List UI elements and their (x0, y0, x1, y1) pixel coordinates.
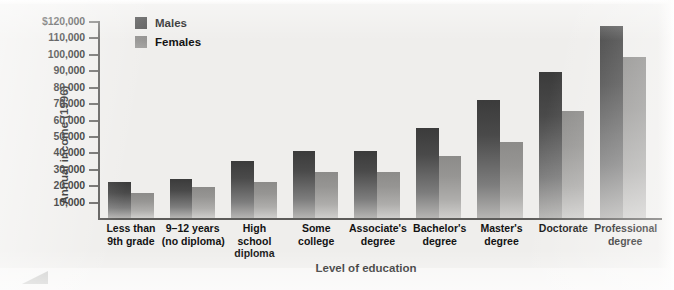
y-tick-label: 50,000 (53, 130, 85, 142)
bar-females (377, 172, 400, 218)
y-tick-label: 110,000 (48, 31, 85, 43)
category-label-line: High (224, 222, 286, 235)
legend-swatch-females-icon (135, 36, 147, 48)
x-axis-category-label: Professionaldegree (594, 222, 656, 247)
x-axis-line (98, 218, 662, 220)
y-tick-mark (89, 87, 98, 89)
category-label-line: Bachelor's (409, 222, 471, 235)
category-label-line: Professional (594, 222, 656, 235)
page-top-edge (0, 0, 674, 4)
bar-group (231, 21, 277, 218)
y-tick-label: $120,000 (42, 15, 85, 27)
bar-males (231, 161, 254, 218)
y-tick-mark (89, 21, 98, 23)
category-label-line: degree (347, 235, 409, 248)
y-tick-mark (89, 136, 98, 138)
bar-group (477, 21, 523, 218)
x-axis-title-text: Level of education (316, 262, 417, 274)
page-right-edge (658, 0, 674, 290)
y-tick-mark (89, 202, 98, 204)
category-label-line: 9–12 years (162, 222, 224, 235)
bar-males (477, 100, 500, 218)
legend-label-males: Males (155, 17, 187, 29)
x-axis-category-label: Doctorate (532, 222, 594, 235)
chart-legend: Males Females (135, 17, 201, 55)
x-axis-category-label: Master'sdegree (471, 222, 533, 247)
y-tick-label: 90,000 (53, 64, 85, 76)
y-tick-mark (89, 103, 98, 105)
y-tick-mark (89, 169, 98, 171)
bar-females (192, 187, 215, 218)
figure-container: Annual income (1996) 10,00020,00030,0004… (0, 0, 674, 290)
category-label-line: college (285, 235, 347, 248)
y-tick-label: 70,000 (53, 97, 85, 109)
y-tick-label: 40,000 (53, 146, 85, 158)
bar-females (254, 182, 277, 218)
x-axis-category-label: 9–12 years(no diploma) (162, 222, 224, 247)
y-tick-mark (89, 152, 98, 154)
category-label-line: degree (471, 235, 533, 248)
x-axis-title: Level of education (0, 262, 674, 274)
bar-males (108, 182, 131, 218)
x-axis-category-label: Somecollege (285, 222, 347, 247)
bar-females (439, 156, 462, 218)
bar-males (354, 151, 377, 218)
x-axis-category-label: Highschooldiploma (224, 222, 286, 260)
category-label-line: Less than (100, 222, 162, 235)
x-axis-category-label: Less than9th grade (100, 222, 162, 247)
bar-females (500, 142, 523, 218)
category-label-line: (no diploma) (162, 235, 224, 248)
y-tick-mark (89, 37, 98, 39)
bar-males (293, 151, 316, 218)
y-tick-mark (89, 70, 98, 72)
legend-label-females: Females (155, 36, 201, 48)
category-label-line: diploma (224, 247, 286, 260)
category-label-line: degree (409, 235, 471, 248)
category-label-line: Associate's (347, 222, 409, 235)
y-tick-label: 60,000 (53, 114, 85, 126)
x-axis-category-label: Bachelor'sdegree (409, 222, 471, 247)
legend-item-males: Males (135, 17, 201, 29)
bar-males (416, 128, 439, 218)
bar-females (315, 172, 338, 218)
bar-males (600, 26, 623, 218)
y-tick-mark (89, 120, 98, 122)
bar-group (293, 21, 339, 218)
y-tick-mark (89, 185, 98, 187)
y-tick-label: 100,000 (48, 48, 85, 60)
y-tick-label: 30,000 (53, 163, 85, 175)
bar-females (562, 111, 585, 218)
category-label-line: school (224, 235, 286, 248)
category-label-line: Doctorate (532, 222, 594, 235)
y-tick-mark (89, 54, 98, 56)
category-label-line: degree (594, 235, 656, 248)
legend-item-females: Females (135, 36, 201, 48)
bar-males (539, 72, 562, 218)
category-label-line: 9th grade (100, 235, 162, 248)
category-label-line: Master's (471, 222, 533, 235)
bar-group (539, 21, 585, 218)
category-label-line: Some (285, 222, 347, 235)
bar-males (170, 179, 193, 218)
bar-group (354, 21, 400, 218)
y-tick-label: 10,000 (53, 196, 85, 208)
y-tick-label: 80,000 (53, 81, 85, 93)
x-axis-category-label: Associate'sdegree (347, 222, 409, 247)
bar-group (416, 21, 462, 218)
y-tick-label: 20,000 (53, 179, 85, 191)
bar-group (600, 21, 646, 218)
legend-swatch-males-icon (135, 17, 147, 29)
bar-females (623, 57, 646, 218)
bar-females (131, 193, 154, 218)
